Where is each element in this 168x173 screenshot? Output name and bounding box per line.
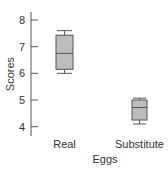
y-tick-label: 7	[19, 41, 25, 53]
y-tick-label: 6	[19, 67, 25, 79]
x-category-label: Real	[53, 138, 76, 150]
box-plot-chart: 45678 RealSubstitute Scores Eggs	[0, 0, 168, 173]
x-category-label: Substitute	[115, 138, 164, 150]
x-axis-labels: RealSubstitute	[53, 138, 164, 150]
y-axis: 45678	[19, 12, 38, 136]
box-real	[56, 31, 73, 74]
iqr-box	[56, 35, 73, 69]
iqr-box	[132, 100, 147, 120]
box-group	[56, 31, 147, 124]
y-tick-label: 4	[19, 121, 25, 133]
x-axis-label: Eggs	[92, 153, 118, 165]
box-substitute	[132, 98, 147, 124]
y-tick-label: 8	[19, 14, 25, 26]
y-tick-label: 5	[19, 94, 25, 106]
y-axis-label: Scores	[4, 56, 16, 91]
